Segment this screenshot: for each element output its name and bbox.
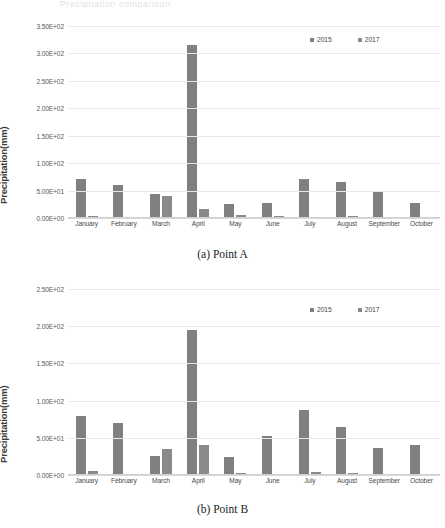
gridline: [68, 191, 440, 192]
bar-group: [68, 26, 105, 218]
y-tick-label: 0.00E+00: [36, 215, 64, 222]
x-tick-label: January: [68, 477, 105, 484]
bar-2015-january: [76, 179, 86, 218]
gridline: [68, 163, 440, 164]
gridline: [68, 81, 440, 82]
x-tick-label: July: [291, 220, 328, 227]
x-tick-label: February: [105, 220, 142, 227]
cut-off-header-text: Precipitation comparison: [60, 0, 390, 8]
x-tick-label: January: [68, 220, 105, 227]
legend-item-2017[interactable]: 2017: [358, 306, 380, 313]
legend-swatch-icon: [310, 308, 314, 312]
bar-2017-april: [199, 445, 209, 475]
bar-group: [142, 26, 179, 218]
bar-2015-april: [187, 330, 197, 475]
bar-group: [291, 26, 328, 218]
y-tick-label: 5.00E+01: [36, 434, 64, 441]
y-tick-label: 2.50E+02: [36, 77, 64, 84]
legend-item-2015[interactable]: 2015: [310, 36, 332, 43]
bar-2015-march: [150, 194, 160, 218]
x-axis-category-labels-b: JanuaryFebruaryMarchAprilMayJuneJulyAugu…: [68, 477, 440, 484]
bar-group: [366, 26, 403, 218]
plot-area-b: [68, 289, 440, 475]
x-tick-label: August: [328, 220, 365, 227]
figure-caption-a: (a) Point A: [0, 248, 445, 260]
gridline: [68, 438, 440, 439]
bar-group: [105, 289, 142, 475]
x-tick-label: April: [180, 477, 217, 484]
legend-swatch-icon: [358, 308, 362, 312]
legend-swatch-icon: [358, 38, 362, 42]
legend-b: 20152017: [310, 306, 379, 313]
bar-2015-march: [150, 456, 160, 475]
bar-2015-july: [299, 179, 309, 218]
legend-item-2017[interactable]: 2017: [358, 36, 380, 43]
gridline: [68, 326, 440, 327]
y-tick-label: 3.50E+02: [36, 23, 64, 30]
y-tick-label: 1.50E+02: [36, 132, 64, 139]
bar-group: [403, 289, 440, 475]
bar-group: [291, 289, 328, 475]
y-tick-label: 1.00E+02: [36, 160, 64, 167]
legend-label: 2017: [365, 36, 380, 43]
x-tick-label: September: [366, 220, 403, 227]
legend-label: 2017: [365, 306, 380, 313]
bar-2015-july: [299, 410, 309, 475]
bar-2015-september: [373, 448, 383, 475]
y-tick-label: 2.00E+02: [36, 323, 64, 330]
figure-point-a: Precipitation(mm) 0.00E+005.00E+011.00E+…: [0, 12, 445, 264]
bar-group: [180, 289, 217, 475]
legend-item-2015[interactable]: 2015: [310, 306, 332, 313]
bar-2015-june: [262, 203, 272, 218]
bar-group: [254, 289, 291, 475]
bar-2015-february: [113, 423, 123, 475]
figure-caption-b: (b) Point B: [0, 503, 445, 515]
gridline: [68, 108, 440, 109]
legend-swatch-icon: [310, 38, 314, 42]
y-tick-label: 3.00E+02: [36, 50, 64, 57]
x-tick-label: July: [291, 477, 328, 484]
bar-2015-august: [336, 427, 346, 475]
gridline: [68, 136, 440, 137]
bar-group: [254, 26, 291, 218]
x-axis-category-labels-a: JanuaryFebruaryMarchAprilMayJuneJulyAugu…: [68, 220, 440, 227]
gridline: [68, 401, 440, 402]
bar-2015-september: [373, 191, 383, 218]
bar-group: [217, 289, 254, 475]
y-tick-label: 0.00E+00: [36, 472, 64, 479]
bar-group: [403, 26, 440, 218]
gridline: [68, 53, 440, 54]
x-tick-label: April: [180, 220, 217, 227]
bar-group: [217, 26, 254, 218]
bar-2017-march: [162, 449, 172, 475]
bar-2017-march: [162, 196, 172, 218]
x-tick-label: August: [328, 477, 365, 484]
gridline: [68, 289, 440, 290]
x-tick-label: October: [403, 477, 440, 484]
x-tick-label: March: [142, 477, 179, 484]
bar-group: [328, 26, 365, 218]
bar-group: [180, 26, 217, 218]
bar-series-b: [68, 289, 440, 475]
y-tick-label: 1.00E+02: [36, 397, 64, 404]
bar-group: [105, 26, 142, 218]
bar-2015-january: [76, 416, 86, 475]
y-axis-title-a: Precipitation(mm): [0, 127, 9, 204]
legend-label: 2015: [317, 306, 332, 313]
bar-2015-june: [262, 436, 272, 475]
bar-2015-october: [410, 445, 420, 475]
x-tick-label: March: [142, 220, 179, 227]
x-tick-label: October: [403, 220, 440, 227]
figure-page: Precipitation comparison Precipitation(m…: [0, 0, 445, 528]
x-tick-label: September: [366, 477, 403, 484]
y-tick-label: 1.50E+02: [36, 360, 64, 367]
x-tick-label: June: [254, 477, 291, 484]
bar-series-a: [68, 26, 440, 218]
y-tick-label: 2.50E+02: [36, 286, 64, 293]
figure-point-b: Precipitation(mm) 0.00E+005.00E+011.00E+…: [0, 275, 445, 528]
bar-2015-may: [224, 457, 234, 475]
bar-group: [142, 289, 179, 475]
plot-wrapper-b: Precipitation(mm) 0.00E+005.00E+011.00E+…: [0, 275, 445, 497]
plot-area-a: [68, 26, 440, 218]
x-tick-label: May: [217, 477, 254, 484]
